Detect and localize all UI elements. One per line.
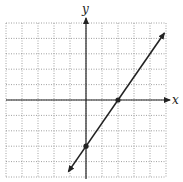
x-axis-label: x (172, 93, 179, 107)
data-point-y-intercept (83, 144, 88, 149)
coordinate-plane: x y (0, 0, 183, 182)
axes (6, 18, 170, 179)
data-point-x-intercept (115, 97, 120, 102)
y-axis-label: y (81, 2, 89, 16)
